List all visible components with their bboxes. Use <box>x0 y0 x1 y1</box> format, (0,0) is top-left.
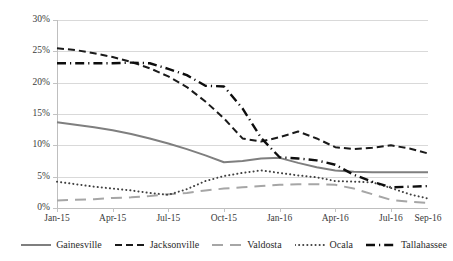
y-tick-label: 30% <box>0 14 50 24</box>
x-tick-mark <box>57 208 58 212</box>
legend-item-tallahassee[interactable]: Tallahassee <box>366 239 447 251</box>
legend-swatch-jacksonville <box>115 240 145 250</box>
chart-legend: GainesvilleJacksonvilleValdostaOcalaTall… <box>36 236 432 254</box>
x-tick-label: Apr-16 <box>305 213 365 224</box>
legend-item-valdosta[interactable]: Valdosta <box>212 239 281 251</box>
line-chart: 0%5%10%15%20%25%30% Jan-15Apr-15Jul-15Oc… <box>0 0 453 261</box>
legend-item-ocala[interactable]: Ocala <box>295 239 353 251</box>
legend-item-gainesville[interactable]: Gainesville <box>21 239 102 251</box>
x-tick-mark <box>335 208 336 212</box>
series-line-valdosta <box>57 184 428 203</box>
x-tick-mark <box>224 208 225 212</box>
y-tick-label: 5% <box>0 171 50 181</box>
x-tick-mark <box>168 208 169 212</box>
legend-label: Valdosta <box>247 239 281 251</box>
y-tick-label: 10% <box>0 139 50 149</box>
series-lines <box>57 20 428 208</box>
x-tick-label: Sep-16 <box>398 213 453 224</box>
x-tick-label: Jul-15 <box>138 213 198 224</box>
y-tick-label: 25% <box>0 45 50 55</box>
legend-label: Jacksonville <box>150 239 199 251</box>
plot-area <box>57 20 428 208</box>
legend-swatch-tallahassee <box>366 240 396 250</box>
legend-item-jacksonville[interactable]: Jacksonville <box>115 239 199 251</box>
x-tick-mark <box>391 208 392 212</box>
legend-label: Ocala <box>330 239 353 251</box>
y-tick-label: 20% <box>0 77 50 87</box>
y-tick-label: 15% <box>0 108 50 118</box>
legend-swatch-gainesville <box>21 240 51 250</box>
x-tick-mark <box>113 208 114 212</box>
legend-swatch-ocala <box>295 240 325 250</box>
x-tick-mark <box>280 208 281 212</box>
x-tick-label: Jan-16 <box>250 213 310 224</box>
y-tick-label: 0% <box>0 202 50 212</box>
legend-label: Tallahassee <box>401 239 447 251</box>
legend-label: Gainesville <box>56 239 102 251</box>
x-tick-label: Jan-15 <box>27 213 87 224</box>
x-tick-label: Oct-15 <box>194 213 254 224</box>
series-line-tallahassee <box>57 63 428 188</box>
series-line-ocala <box>57 170 428 198</box>
legend-swatch-valdosta <box>212 240 242 250</box>
x-tick-label: Apr-15 <box>83 213 143 224</box>
